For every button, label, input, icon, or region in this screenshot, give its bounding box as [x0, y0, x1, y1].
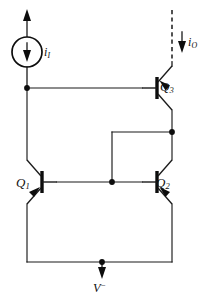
label-q2-name: Q	[156, 175, 165, 190]
label-q1: Q1	[16, 176, 30, 191]
label-output-current: iO	[188, 36, 197, 50]
label-output-current-name: i	[188, 35, 191, 49]
label-negative-supply-superscript: −	[101, 280, 106, 290]
label-q1-subscript: 1	[26, 181, 30, 191]
q3-collector-lead	[158, 94, 172, 110]
label-q3-subscript: 3	[170, 85, 174, 95]
junction-dot-input	[24, 85, 30, 91]
junction-dot-right-mid	[169, 129, 175, 135]
label-output-current-subscript: O	[192, 41, 198, 50]
junction-dot-bottom-rail	[99, 259, 105, 265]
label-input-current-subscript: I	[48, 51, 51, 60]
transistor-q1	[27, 160, 57, 204]
label-input-current-name: i	[44, 45, 47, 59]
current-source-output-arrowhead	[23, 9, 31, 21]
q1-emitter-lead	[27, 160, 41, 176]
label-negative-supply: V−	[93, 281, 106, 294]
label-q3: Q3	[160, 80, 174, 95]
label-q1-name: Q	[16, 175, 25, 190]
label-negative-supply-name: V	[93, 281, 101, 295]
label-q3-name: Q	[160, 79, 169, 94]
negative-supply-arrowhead	[98, 267, 106, 279]
output-current-arrowhead	[178, 41, 186, 53]
circuit-schematic-svg	[0, 0, 209, 303]
current-source-symbol	[12, 9, 42, 88]
label-input-current: iI	[44, 46, 50, 60]
label-q2: Q2	[156, 176, 170, 191]
label-q2-subscript: 2	[166, 181, 170, 191]
circuit-diagram: Q1 Q2 Q3 iI iO V−	[0, 0, 209, 303]
output-lead-group	[172, 10, 186, 62]
junction-dot-base-net	[109, 179, 115, 185]
q2-emitter-lead	[158, 160, 172, 176]
